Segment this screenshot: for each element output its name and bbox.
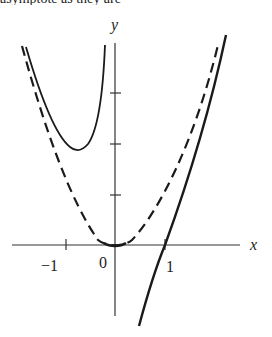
- x-tick-label-neg1: −1: [41, 257, 58, 274]
- steep-solid-curve: [139, 35, 226, 326]
- graph: y x −1 0 1: [0, 0, 272, 337]
- x-tick-label-1: 1: [166, 258, 174, 275]
- y-axis-label: y: [109, 16, 119, 34]
- x-axis-label: x: [249, 236, 257, 253]
- x-tick-label-0: 0: [99, 254, 107, 271]
- dashed-parabola: [22, 45, 218, 245]
